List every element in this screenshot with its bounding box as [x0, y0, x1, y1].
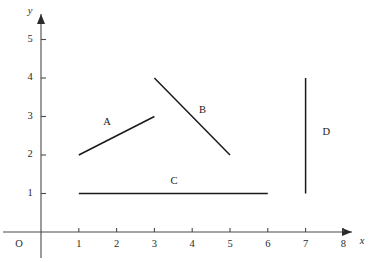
segment-label-d: D	[323, 126, 331, 137]
y-axis-group	[37, 14, 45, 258]
x-axis-group	[3, 228, 352, 236]
x-tick-label: 5	[227, 238, 232, 249]
x-tick-label-group: 12345678	[76, 238, 346, 249]
x-axis-label: x	[359, 235, 365, 246]
x-tick-label: 7	[303, 238, 308, 249]
x-tick-group	[79, 228, 344, 232]
y-tick-label: 5	[27, 33, 32, 44]
y-tick-label: 3	[27, 110, 32, 121]
segment-group	[79, 78, 306, 194]
line-segment-b	[154, 78, 230, 155]
y-tick-label: 1	[27, 187, 32, 198]
coordinate-plane-figure: 12345678 12345 ABCD x y O	[0, 0, 369, 262]
x-tick-label: 8	[341, 238, 346, 249]
y-tick-group	[41, 40, 46, 194]
y-tick-label: 2	[27, 148, 32, 159]
y-tick-label-group: 12345	[27, 33, 33, 198]
x-tick-label: 1	[76, 238, 81, 249]
plot-svg: 12345678 12345 ABCD x y O	[0, 0, 369, 262]
segment-label-group: ABCD	[103, 104, 330, 185]
x-tick-label: 2	[114, 238, 119, 249]
segment-label-b: B	[199, 104, 206, 115]
segment-label-c: C	[171, 175, 178, 186]
x-tick-label: 4	[190, 238, 196, 249]
y-axis-arrow-icon	[37, 14, 45, 24]
x-tick-label: 6	[265, 238, 270, 249]
x-tick-label: 3	[152, 238, 157, 249]
y-tick-label: 4	[27, 71, 33, 82]
line-segment-a	[79, 117, 155, 156]
segment-label-a: A	[103, 116, 111, 127]
y-axis-label: y	[27, 5, 33, 16]
origin-label: O	[15, 238, 23, 249]
